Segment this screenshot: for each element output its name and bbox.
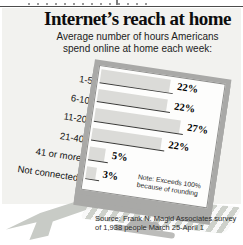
source-attribution: Source: Frank N. Magid Associates survey… [95, 214, 241, 232]
cropped-letter-descender [116, 0, 118, 5]
value-label: 3% [102, 168, 119, 181]
subtitle-line-1: Average number of hours Americans [34, 31, 241, 43]
cropped-headline-remnant [28, 1, 148, 5]
chart-subtitle: Average number of hours Americans spend … [34, 31, 241, 54]
subtitle-line-2: spend online at home each week: [34, 43, 241, 55]
source-line-2: of 1,938 people March 25-April 1 [95, 223, 241, 232]
value-label: 22% [174, 100, 196, 114]
value-label: 27% [187, 122, 209, 136]
bar [85, 166, 96, 180]
source-line-1: Source: Frank N. Magid Associates survey [95, 214, 241, 223]
bar-baseline [88, 159, 108, 163]
chart-title: Internet’s reach at home [34, 8, 241, 30]
value-label: 22% [176, 81, 198, 95]
monitor-screen: 22%22%27%22%5%3% Note: Exceeds 100% beca… [82, 66, 225, 207]
top-divider-rule [0, 6, 243, 7]
value-label: 22% [168, 139, 190, 153]
chart-header: Internet’s reach at home Average number … [34, 8, 241, 54]
bar-baseline [85, 178, 99, 181]
value-label: 5% [111, 150, 128, 163]
monitor-frame: 22%22%27%22%5%3% Note: Exceeds 100% beca… [81, 65, 226, 209]
